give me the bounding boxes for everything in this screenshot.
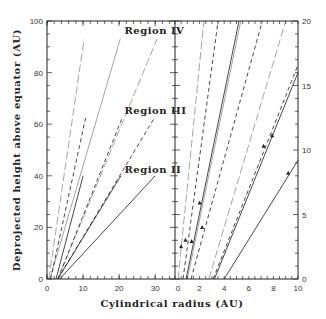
right-panel-lines bbox=[178, 21, 298, 279]
series-line bbox=[60, 176, 156, 279]
tick-labels: 0102030024681002040608010005101520 bbox=[30, 17, 312, 293]
triangle-marker bbox=[190, 239, 194, 243]
region-label: Region II bbox=[125, 164, 182, 175]
series-line bbox=[50, 39, 120, 279]
triangle-marker bbox=[183, 238, 187, 242]
x-tick-label: 0 bbox=[176, 284, 181, 293]
y-tick-label: 5 bbox=[302, 211, 307, 220]
x-tick-label: 6 bbox=[247, 284, 252, 293]
x-tick-label: 0 bbox=[45, 284, 50, 293]
triangle-marker bbox=[179, 244, 183, 248]
triangle-marker bbox=[198, 200, 202, 204]
y-tick-label: 20 bbox=[302, 17, 311, 26]
region-label: Region IV bbox=[125, 25, 185, 36]
series-line bbox=[51, 117, 86, 280]
y-tick-label: 80 bbox=[34, 69, 43, 78]
triangle-marker bbox=[200, 225, 204, 229]
series-line bbox=[224, 160, 298, 279]
x-tick-label: 10 bbox=[79, 284, 88, 293]
x-tick-label: 30 bbox=[151, 284, 160, 293]
series-line bbox=[209, 21, 286, 279]
x-tick-label: 4 bbox=[222, 284, 227, 293]
left-panel-lines bbox=[49, 39, 157, 279]
axis-ticks bbox=[47, 21, 298, 279]
series-line bbox=[49, 39, 84, 279]
series-line bbox=[186, 21, 239, 279]
chart: 0102030024681002040608010005101520 Regio… bbox=[0, 0, 326, 319]
y-tick-label: 60 bbox=[34, 120, 43, 129]
series-line bbox=[191, 21, 262, 279]
y-tick-label: 0 bbox=[302, 275, 307, 284]
series-line bbox=[58, 39, 157, 279]
triangle-marker bbox=[286, 171, 290, 175]
y-tick-label: 10 bbox=[302, 146, 311, 155]
series-line bbox=[187, 21, 241, 279]
x-tick-label: 8 bbox=[271, 284, 276, 293]
series-line bbox=[214, 73, 298, 279]
x-tick-label: 2 bbox=[197, 284, 202, 293]
y-axis-title: Deprojected height above equator (AU) bbox=[11, 29, 22, 271]
y-tick-label: 40 bbox=[34, 172, 43, 181]
x-tick-label: 20 bbox=[115, 284, 124, 293]
y-tick-label: 15 bbox=[302, 82, 311, 91]
triangle-marker bbox=[262, 144, 266, 148]
y-tick-label: 100 bbox=[30, 17, 44, 26]
region-label: Region III bbox=[125, 105, 187, 116]
y-tick-label: 20 bbox=[34, 223, 43, 232]
x-tick-label: 10 bbox=[294, 284, 303, 293]
x-axis-title: Cylindrical radius (AU) bbox=[100, 298, 243, 309]
y-tick-label: 0 bbox=[39, 275, 44, 284]
series-line bbox=[213, 65, 298, 279]
series-line bbox=[58, 176, 121, 279]
